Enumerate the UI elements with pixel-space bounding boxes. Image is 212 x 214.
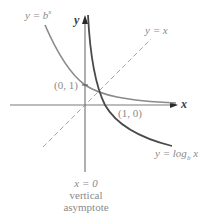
asymptote-label: x = 0 vertical asymptote	[60, 178, 112, 213]
exponential-curve	[45, 25, 176, 103]
identity-label: y = x	[145, 25, 168, 36]
exp-label-prefix: y =	[25, 9, 43, 21]
point-1-0-label: (1, 0)	[118, 108, 142, 119]
exp-label-exponent: x	[48, 8, 51, 16]
x-axis-label: x	[181, 98, 187, 110]
log-label-arg: x	[190, 147, 198, 159]
asymptote-text-line1: vertical	[60, 190, 112, 201]
asymptote-text-line2: asymptote	[60, 202, 112, 213]
asymptote-equation: x = 0	[60, 178, 112, 189]
y-axis-arrow-icon	[82, 15, 88, 24]
log-label-prefix: y = log	[155, 147, 187, 159]
identity-line	[43, 39, 151, 147]
y-axis-label: y	[74, 14, 79, 26]
logarithm-label: y = logb x	[155, 148, 198, 162]
exponential-label: y = bx	[25, 9, 51, 21]
point-0-1-label: (0, 1)	[54, 80, 78, 91]
